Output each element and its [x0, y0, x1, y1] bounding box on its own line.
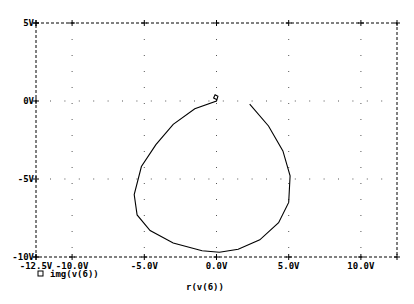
x-tick-label: 10.0V	[347, 261, 375, 271]
phase-plot: 5V0V-5V-10V -12.5V-10.0V-5.0V0.0V5.0V10.…	[0, 0, 414, 304]
x-axis-title: r(v(6))	[186, 282, 224, 292]
y-axis-labels: 5V0V-5V-10V	[12, 18, 34, 262]
y-tick-label: 5V	[23, 18, 34, 28]
x-tick-label: 5.0V	[278, 261, 300, 271]
x-tick-label: -5.0V	[131, 261, 159, 271]
y-tick-label: -5V	[18, 174, 35, 184]
data-curve	[134, 95, 290, 253]
x-tick-label: 0.0V	[206, 261, 228, 271]
legend-label: img(v(6))	[50, 269, 99, 279]
grid	[50, 39, 382, 248]
x-tick-label: -12.5V	[20, 261, 53, 271]
y-tick-label: 0V	[23, 96, 34, 106]
plot-frame	[36, 23, 397, 257]
legend-marker-icon	[38, 271, 43, 276]
